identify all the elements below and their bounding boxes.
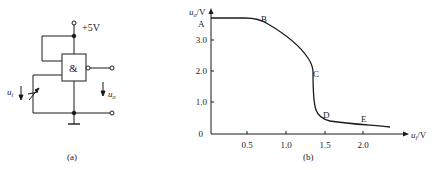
circuit-diagram <box>19 21 114 124</box>
x-tick-3: 1.5 <box>319 140 331 150</box>
y-axis-label: uo/V <box>189 7 206 18</box>
x-tick-4: 2.0 <box>357 140 369 150</box>
y-tick-1: 1.0 <box>196 97 208 107</box>
supply-label: +5V <box>82 22 101 33</box>
ground-terminal <box>110 111 114 115</box>
caption-a: (a) <box>67 152 77 162</box>
gate-symbol: & <box>69 62 78 74</box>
y-tick-3: 3.0 <box>196 35 208 45</box>
point-label-e: E <box>361 114 367 124</box>
input-voltage-label: ui <box>7 87 14 98</box>
x-axis-arrow-icon <box>403 132 409 137</box>
transfer-curve <box>211 18 390 127</box>
supply-terminal <box>72 21 76 25</box>
point-label-b: B <box>261 14 267 24</box>
transfer-chart: 0 1.0 2.0 3.0 0.5 1.0 1.5 2.0 uo/V ui/V … <box>189 7 427 162</box>
caption-b: (b) <box>303 152 314 162</box>
x-tick-1: 0.5 <box>241 140 253 150</box>
inversion-bubble <box>86 66 90 70</box>
point-label-a: A <box>198 19 205 29</box>
y-tick-0: 0 <box>199 129 204 139</box>
y-axis-arrow-icon <box>209 8 214 14</box>
input-arrow-head <box>19 95 23 100</box>
x-tick-2: 1.0 <box>280 140 292 150</box>
y-tick-2: 2.0 <box>196 66 208 76</box>
output-voltage-label: uo <box>108 89 116 100</box>
point-label-d: D <box>323 110 330 120</box>
figure: +5V & ui uo (a) 0 1.0 2.0 3.0 0.5 1.0 1.… <box>0 0 432 170</box>
point-label-c: C <box>313 69 319 79</box>
x-axis-label: ui/V <box>411 130 427 141</box>
output-terminal <box>110 66 114 70</box>
output-arrow-head <box>101 91 105 96</box>
